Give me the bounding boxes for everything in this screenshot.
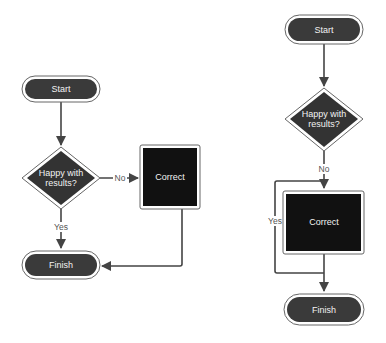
flowchart-canvas: No Yes Start Happy with results? Correct…: [0, 0, 386, 343]
node-decision-label-line2: results?: [308, 119, 340, 129]
node-finish[interactable]: Finish: [284, 294, 364, 325]
node-start[interactable]: Start: [22, 76, 100, 102]
node-finish[interactable]: Finish: [22, 251, 100, 279]
edge-correct-to-finish: [102, 209, 182, 266]
node-decision-label-line2: results?: [45, 178, 77, 188]
left-flowchart: No Yes Start Happy with results? Correct…: [22, 76, 200, 279]
node-correct[interactable]: Correct: [283, 191, 364, 254]
node-finish-label: Finish: [49, 260, 73, 270]
node-finish-label: Finish: [312, 305, 336, 315]
node-decision[interactable]: Happy with results?: [285, 88, 363, 151]
node-start[interactable]: Start: [285, 15, 363, 44]
node-start-label: Start: [51, 84, 71, 94]
node-start-label: Start: [314, 25, 334, 35]
node-decision[interactable]: Happy with results?: [22, 147, 100, 209]
edge-label-no: No: [319, 164, 330, 174]
node-correct-label: Correct: [309, 217, 339, 227]
node-decision-label-line1: Happy with: [302, 109, 347, 119]
edge-label-yes: Yes: [54, 222, 68, 232]
node-decision-label-line1: Happy with: [39, 168, 84, 178]
edge-label-no: No: [115, 173, 126, 183]
node-correct-label: Correct: [155, 172, 185, 182]
edge-label-yes: Yes: [268, 216, 282, 226]
node-correct[interactable]: Correct: [140, 145, 200, 209]
right-flowchart: No Yes Start Happy with results? Correct…: [266, 15, 364, 325]
